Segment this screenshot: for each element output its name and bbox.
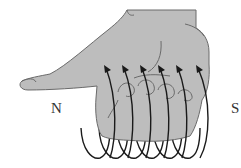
north-pole-label: N bbox=[51, 100, 62, 117]
diagram-canvas bbox=[0, 0, 241, 168]
south-pole-label: S bbox=[231, 100, 239, 117]
solenoid-right-hand-diagram: N S bbox=[0, 0, 241, 168]
